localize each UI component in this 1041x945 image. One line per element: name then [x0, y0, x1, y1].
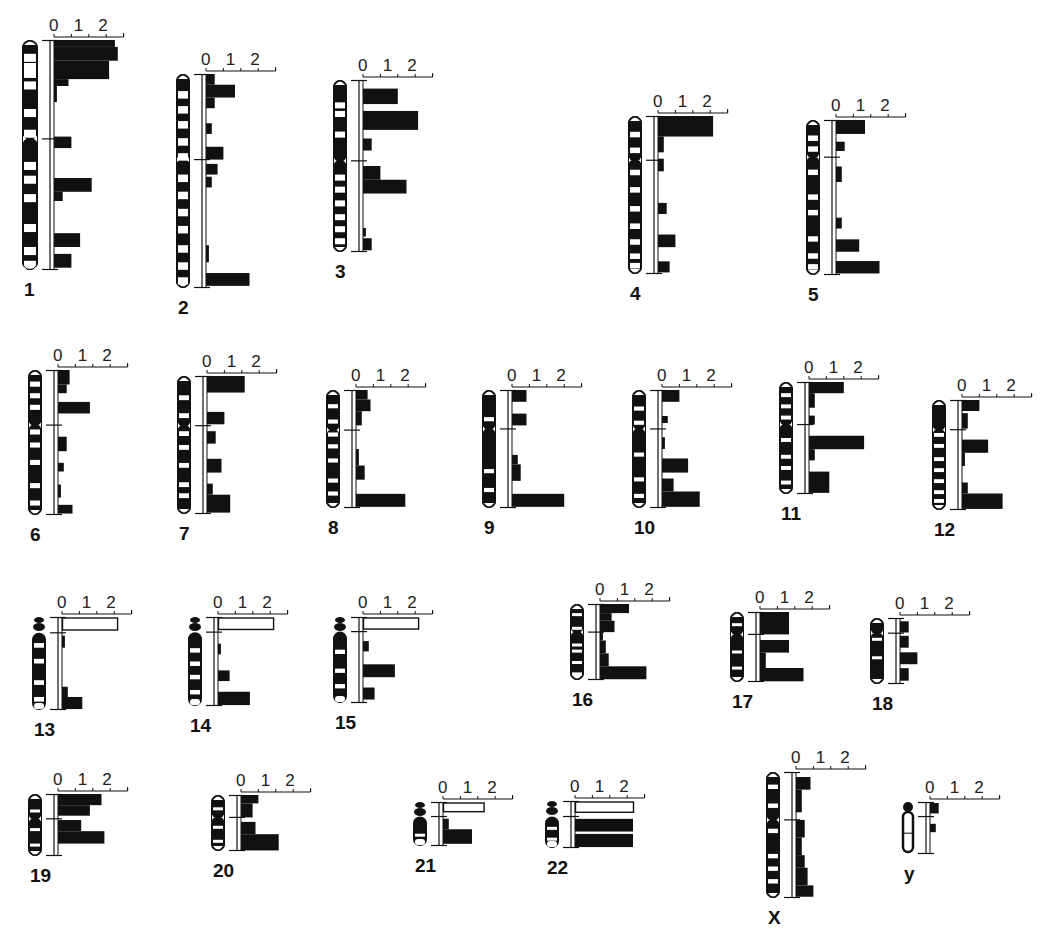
chromosome-panel-11: 012	[779, 346, 889, 498]
scale-tick-label: 0	[202, 352, 211, 371]
open-histogram-bar	[63, 618, 118, 630]
histogram-bar	[658, 137, 664, 153]
scale-tick-label: 2	[251, 352, 260, 371]
histogram-bar	[836, 167, 842, 183]
scale-tick-label: 0	[236, 771, 245, 790]
scale-tick-label: 2	[407, 593, 416, 612]
scale-axis: 012	[925, 778, 1000, 799]
chromosome-panel-3: 012	[333, 44, 443, 256]
scale-axis: 012	[201, 50, 276, 71]
histogram-bar	[809, 436, 864, 449]
histogram-bars	[575, 802, 634, 847]
histogram-bar	[206, 147, 223, 160]
histogram-bar	[900, 636, 909, 648]
scale-tick-label: 0	[895, 594, 904, 613]
scale-tick-label: 2	[853, 358, 862, 377]
scale-axis: 012	[213, 593, 288, 614]
histogram-bar	[207, 495, 230, 513]
chromosome-label: 15	[335, 713, 356, 732]
chromosome-ideogram	[333, 80, 347, 252]
histogram-bar	[206, 164, 218, 175]
histogram-bar	[796, 820, 805, 838]
scale-axis: 012	[202, 352, 277, 373]
chromosome-label: 5	[808, 285, 819, 304]
histogram-bar	[356, 449, 359, 466]
histogram-bar	[930, 803, 939, 813]
histogram-bar	[363, 228, 366, 237]
scale-axis: 012	[236, 771, 311, 792]
scale-tick-label: 1	[82, 593, 91, 612]
histogram-bar	[58, 805, 90, 816]
chromosome-ideogram	[176, 74, 190, 288]
scale-tick-label: 0	[358, 593, 367, 612]
chromosome-ideogram	[211, 795, 225, 851]
histogram-bars	[512, 390, 564, 507]
scale-tick-label: 2	[1006, 376, 1015, 395]
chromosome-panel-10: 012	[632, 354, 742, 512]
chromosome-label: 7	[179, 524, 190, 543]
chromosome-panel-x: 012	[766, 736, 876, 902]
chromosome-label: 6	[30, 525, 41, 544]
histogram-bar	[363, 111, 418, 130]
histogram-bar	[760, 653, 766, 668]
chromosome-label: 2	[178, 298, 189, 317]
scale-tick-label: 0	[925, 778, 934, 797]
chromosome-ideogram	[482, 390, 496, 508]
scale-axis: 012	[53, 346, 128, 367]
histogram-bar	[54, 137, 71, 149]
histogram-bar	[796, 855, 805, 868]
scale-tick-label: 0	[358, 56, 367, 75]
histogram-bar	[760, 668, 804, 681]
scale-tick-label: 0	[755, 588, 764, 607]
scale-tick-label: 1	[227, 352, 236, 371]
histogram-bar	[836, 142, 845, 151]
scale-tick-label: 1	[950, 778, 959, 797]
chromosome-label: 12	[934, 520, 955, 539]
histogram-bar	[512, 455, 518, 464]
scale-axis: 012	[791, 748, 866, 769]
scale-tick-label: 0	[201, 50, 210, 69]
scale-tick-label: 0	[804, 358, 813, 377]
histogram-bar	[600, 632, 603, 640]
chromosome-label: 8	[328, 518, 339, 537]
chromosome-ideogram	[632, 390, 646, 508]
histogram-bar	[930, 824, 936, 832]
scale-tick-label: 2	[619, 777, 628, 796]
histogram-bar	[356, 494, 405, 507]
chromosome-ideogram	[730, 612, 744, 682]
chromosome-ideogram	[28, 370, 42, 515]
histogram-bar	[54, 233, 80, 247]
scale-axis: 012	[804, 358, 879, 379]
chromosome-label: 1	[24, 280, 35, 299]
chromosome-ideogram	[188, 617, 202, 706]
histogram-bar	[62, 697, 82, 709]
scale-tick-label: 2	[487, 778, 496, 797]
scale-axis: 012	[53, 770, 128, 791]
chromosome-label: 20	[213, 861, 234, 880]
histogram-bars	[363, 89, 418, 251]
histogram-bars	[809, 382, 864, 493]
histogram-bar	[356, 399, 371, 411]
histogram-bar	[600, 653, 609, 666]
chromosome-panel-12: 012	[932, 364, 1041, 514]
histogram-bar	[58, 794, 102, 805]
arm-bracket	[500, 390, 516, 508]
histogram-bar	[836, 120, 865, 134]
histogram-bar	[512, 464, 521, 481]
scale-tick-label: 1	[78, 346, 87, 365]
scale-axis: 012	[570, 777, 645, 798]
chromosome-label: 9	[484, 518, 495, 537]
histogram-bar	[363, 664, 395, 677]
scale-tick-label: 0	[49, 16, 58, 35]
histogram-bar	[962, 440, 988, 453]
scale-tick-label: 0	[351, 366, 360, 385]
histogram-bar	[512, 390, 527, 402]
scale-tick-label: 2	[706, 366, 715, 385]
histogram-bar	[206, 98, 215, 109]
scale-tick-label: 0	[438, 778, 447, 797]
histogram-bars	[662, 390, 700, 507]
histogram-bars	[207, 376, 245, 513]
scale-tick-label: 2	[644, 580, 653, 599]
chromosome-panel-15: 012	[333, 581, 443, 707]
histogram-bar	[900, 621, 909, 632]
